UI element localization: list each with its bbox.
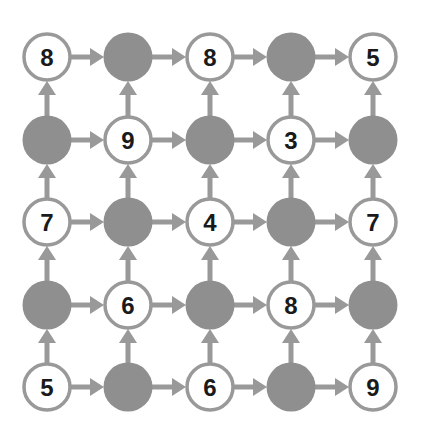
node-label: 4 bbox=[203, 209, 217, 236]
node-label: 8 bbox=[284, 292, 297, 319]
arrow-up-r3-c1 bbox=[119, 246, 137, 282]
number-node: 7 bbox=[24, 199, 70, 245]
number-node: 8 bbox=[187, 34, 233, 80]
number-node: 9 bbox=[105, 117, 151, 163]
node-label: 9 bbox=[121, 127, 134, 154]
arrow-right-r2-c2 bbox=[233, 213, 267, 231]
arrow-right-r0-c0 bbox=[70, 48, 104, 66]
shaded-node bbox=[23, 116, 72, 165]
shaded-node bbox=[349, 116, 398, 165]
number-node: 5 bbox=[350, 34, 396, 80]
number-node: 7 bbox=[350, 199, 396, 245]
arrow-up-r3-c2 bbox=[201, 246, 219, 282]
arrow-up-r2-c4 bbox=[364, 164, 382, 199]
node-label: 5 bbox=[366, 44, 379, 71]
node-label: 7 bbox=[366, 209, 379, 236]
grid-diagram: 8859374768569 bbox=[0, 0, 422, 440]
arrow-right-r0-c2 bbox=[233, 48, 267, 66]
number-node: 8 bbox=[24, 34, 70, 80]
number-node: 6 bbox=[105, 282, 151, 328]
arrow-right-r3-c0 bbox=[70, 296, 104, 314]
shaded-node bbox=[267, 363, 316, 412]
node-label: 9 bbox=[366, 374, 379, 401]
arrow-right-r2-c0 bbox=[70, 213, 104, 231]
arrow-up-r2-c2 bbox=[201, 164, 219, 199]
arrow-up-r2-c3 bbox=[282, 164, 300, 199]
arrow-up-r1-c2 bbox=[201, 81, 219, 117]
shaded-node bbox=[104, 363, 153, 412]
node-label: 3 bbox=[284, 127, 297, 154]
arrow-up-r4-c3 bbox=[282, 329, 300, 364]
node-label: 8 bbox=[203, 44, 216, 71]
number-node: 5 bbox=[24, 364, 70, 410]
number-node: 9 bbox=[350, 364, 396, 410]
arrow-up-r4-c4 bbox=[364, 329, 382, 364]
arrow-right-r0-c3 bbox=[314, 48, 349, 66]
number-node: 8 bbox=[268, 282, 314, 328]
arrow-up-r1-c0 bbox=[38, 81, 56, 117]
node-label: 6 bbox=[121, 292, 134, 319]
arrow-right-r0-c1 bbox=[151, 48, 186, 66]
node-label: 7 bbox=[40, 209, 53, 236]
arrow-right-r3-c1 bbox=[151, 296, 186, 314]
shaded-node bbox=[267, 33, 316, 82]
arrow-up-r2-c0 bbox=[38, 164, 56, 199]
arrow-right-r1-c0 bbox=[70, 131, 104, 149]
shaded-node bbox=[23, 281, 72, 330]
arrow-right-r2-c1 bbox=[151, 213, 186, 231]
shaded-node bbox=[267, 198, 316, 247]
number-node: 3 bbox=[268, 117, 314, 163]
arrow-up-r3-c4 bbox=[364, 246, 382, 282]
arrow-up-r1-c4 bbox=[364, 81, 382, 117]
number-node: 4 bbox=[187, 199, 233, 245]
shaded-node bbox=[104, 33, 153, 82]
arrow-up-r4-c1 bbox=[119, 329, 137, 364]
arrow-up-r1-c3 bbox=[282, 81, 300, 117]
arrow-right-r3-c3 bbox=[314, 296, 349, 314]
arrow-up-r3-c3 bbox=[282, 246, 300, 282]
arrow-up-r2-c1 bbox=[119, 164, 137, 199]
arrow-right-r1-c3 bbox=[314, 131, 349, 149]
number-node: 6 bbox=[187, 364, 233, 410]
node-label: 8 bbox=[40, 44, 53, 71]
arrow-right-r3-c2 bbox=[233, 296, 267, 314]
arrow-right-r4-c1 bbox=[151, 378, 186, 396]
arrow-right-r1-c1 bbox=[151, 131, 186, 149]
shaded-node bbox=[104, 198, 153, 247]
arrow-up-r3-c0 bbox=[38, 246, 56, 282]
arrow-right-r4-c2 bbox=[233, 378, 267, 396]
node-label: 6 bbox=[203, 374, 216, 401]
arrow-up-r1-c1 bbox=[119, 81, 137, 117]
shaded-node bbox=[186, 281, 235, 330]
shaded-node bbox=[349, 281, 398, 330]
shaded-node bbox=[186, 116, 235, 165]
arrow-up-r4-c0 bbox=[38, 329, 56, 364]
arrow-right-r1-c2 bbox=[233, 131, 267, 149]
arrow-right-r2-c3 bbox=[314, 213, 349, 231]
arrow-up-r4-c2 bbox=[201, 329, 219, 364]
arrow-right-r4-c3 bbox=[314, 378, 349, 396]
node-label: 5 bbox=[40, 374, 53, 401]
arrow-right-r4-c0 bbox=[70, 378, 104, 396]
